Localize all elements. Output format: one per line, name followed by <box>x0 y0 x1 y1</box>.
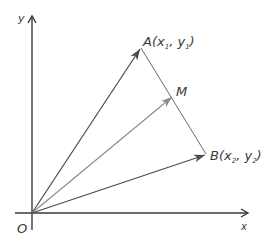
vector-om <box>32 97 172 213</box>
point-a-label: A(x1, y1) <box>142 34 195 51</box>
origin-label: O <box>17 221 27 236</box>
point-m-label: M <box>176 84 187 99</box>
vector-oa <box>32 49 140 213</box>
x-axis-label: x <box>240 221 247 232</box>
point-b-label: B(x2, y2) <box>210 148 262 165</box>
vector-diagram: y x O A(x1, y1) M B(x2, y2) <box>0 0 270 241</box>
vector-ob <box>32 155 205 213</box>
segment-ab <box>141 48 206 154</box>
y-axis-label: y <box>17 12 25 25</box>
